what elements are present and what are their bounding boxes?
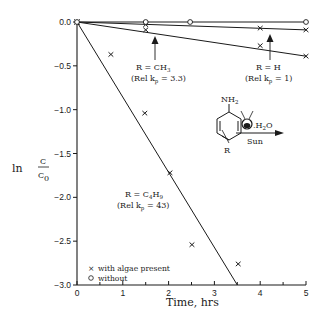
algae-cell-icon bbox=[241, 111, 253, 129]
legend-label-with-algae: with algae present bbox=[98, 264, 170, 273]
legend-marker-x: × bbox=[88, 264, 94, 273]
y-tick-label: 0.0 bbox=[59, 17, 71, 27]
x-tick-label: 4 bbox=[258, 288, 263, 298]
marker-x bbox=[108, 52, 113, 56]
svg-text:R: R bbox=[224, 146, 231, 155]
svg-text:R = C4H9: R = C4H9 bbox=[125, 190, 163, 200]
svg-text:R = CH3: R = CH3 bbox=[136, 63, 171, 73]
marker-x bbox=[143, 28, 148, 32]
x-tick-label: 5 bbox=[304, 288, 309, 298]
marker-circle bbox=[304, 20, 309, 25]
reaction-scheme: NH2 R .H2O Sun bbox=[217, 95, 284, 155]
marker-x bbox=[258, 43, 263, 47]
y-axis-title: ln C C 0 bbox=[12, 157, 49, 183]
x-axis-title: Time, hrs bbox=[166, 296, 219, 309]
y-tick-label: −2.5 bbox=[54, 236, 71, 246]
y-label-ln: ln bbox=[12, 162, 23, 175]
svg-text:Sun: Sun bbox=[247, 137, 263, 146]
marker-x bbox=[236, 262, 241, 266]
y-ticks: 0.0−0.5−1.0−1.5−2.0−2.5−3.0 bbox=[54, 17, 77, 290]
svg-text:NH2: NH2 bbox=[221, 95, 238, 105]
svg-text:R = H: R = H bbox=[256, 63, 281, 72]
legend-marker-circle bbox=[89, 276, 94, 281]
svg-text:(Rel kp = 3.3): (Rel kp = 3.3) bbox=[131, 74, 186, 85]
marker-circle bbox=[143, 20, 148, 25]
marker-x bbox=[190, 242, 195, 246]
annotation-c4h9: R = C4H9 (Rel kp = 43) bbox=[117, 190, 169, 212]
svg-text:.H2O: .H2O bbox=[253, 121, 273, 131]
y-label-numerator: C bbox=[40, 157, 46, 166]
chart: 0.0−0.5−1.0−1.5−2.0−2.5−3.0 012345 ln C … bbox=[0, 0, 327, 327]
arrow-right-icon bbox=[275, 130, 284, 136]
data-markers bbox=[75, 20, 309, 267]
y-label-denominator-sub: 0 bbox=[44, 174, 49, 183]
arrow-up-icon bbox=[267, 34, 274, 42]
svg-text:(Rel kp = 43): (Rel kp = 43) bbox=[117, 201, 169, 212]
legend: × with algae present without bbox=[88, 264, 170, 283]
svg-text:(Rel kp = 1): (Rel kp = 1) bbox=[245, 74, 292, 85]
y-tick-label: −1.0 bbox=[54, 105, 71, 115]
fit-line bbox=[77, 22, 237, 285]
x-tick-label: 1 bbox=[120, 288, 125, 298]
benzene-ring-icon bbox=[217, 104, 241, 143]
y-tick-label: −0.5 bbox=[54, 61, 71, 71]
y-tick-label: −2.0 bbox=[54, 192, 71, 202]
marker-circle bbox=[188, 20, 193, 25]
annotation-h: R = H (Rel kp = 1) bbox=[245, 34, 292, 85]
arrow-up-icon bbox=[152, 36, 159, 44]
x-tick-label: 0 bbox=[75, 288, 80, 298]
annotation-ch3: R = CH3 (Rel kp = 3.3) bbox=[131, 36, 186, 85]
marker-circle bbox=[75, 20, 80, 25]
marker-x bbox=[142, 111, 147, 115]
y-tick-label: −1.5 bbox=[54, 149, 71, 159]
y-tick-label: −3.0 bbox=[54, 280, 71, 290]
legend-label-without: without bbox=[98, 274, 127, 283]
